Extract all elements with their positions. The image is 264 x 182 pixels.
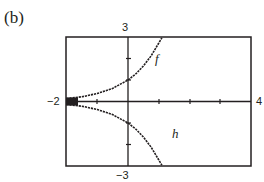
curve-f [66, 38, 161, 99]
x-max-label: 4 [256, 96, 262, 107]
y-min-label: −3 [116, 170, 129, 181]
curve-h-label: h [172, 127, 179, 140]
curve-f-label: f [155, 52, 159, 65]
x-min-label: −2 [47, 96, 60, 107]
graph-window [0, 0, 264, 182]
y-max-label: 3 [122, 22, 128, 33]
curve-h [66, 105, 161, 166]
curve-overlap-start [66, 98, 78, 106]
